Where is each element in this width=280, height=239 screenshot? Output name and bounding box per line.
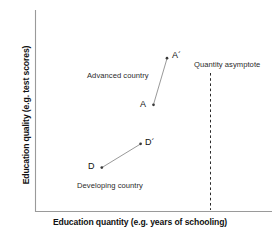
- annotation-advanced-country: Advanced country: [87, 71, 149, 80]
- axis-lines: [36, 10, 273, 212]
- marker-point-d-prime: [139, 142, 142, 145]
- x-axis-title: Education quantity (e.g. years of school…: [0, 217, 280, 227]
- connector-developing: [102, 144, 141, 168]
- point-label-a-prime: A´: [172, 50, 181, 60]
- annotation-quantity-asymptote: Quantity asymptote: [194, 60, 260, 69]
- point-label-d-prime: D´: [145, 137, 155, 147]
- marker-point-a-prime: [166, 57, 169, 60]
- point-label-a: A: [140, 99, 146, 109]
- connector-advanced: [154, 59, 168, 105]
- y-axis-title: Education quality (e.g. test scores): [21, 15, 31, 215]
- education-quality-quantity-chart: Education quality (e.g. test scores) Edu…: [0, 0, 280, 239]
- marker-point-d: [100, 166, 103, 169]
- marker-point-a: [152, 103, 155, 106]
- point-label-d: D: [88, 161, 95, 171]
- annotation-developing-country: Developing country: [77, 181, 143, 190]
- chart-canvas: [0, 0, 280, 239]
